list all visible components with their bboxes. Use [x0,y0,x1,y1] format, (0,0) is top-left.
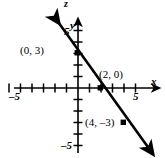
coordinate-plane-svg [0,0,165,158]
point-marker-0-3 [75,50,80,55]
x-axis-label: x [151,76,157,87]
graph-figure: z y x –5 5 5 –5 (0, 3) (2, 0) (4, –3) [0,0,165,158]
x-tick-label-five: 5 [133,91,139,102]
stray-z-artifact: z [64,0,68,9]
y-tick-label-negative-five: –5 [61,140,72,151]
y-tick-label-five: 5 [64,26,70,37]
point-label-0-3: (0, 3) [20,45,44,56]
point-marker-4--3 [121,120,126,125]
y-axis-label: y [70,20,75,31]
point-marker-2-0 [98,85,103,90]
x-tick-label-negative-five: –5 [9,91,20,102]
point-label-4-negative-3: (4, –3) [85,117,114,128]
point-label-2-0: (2, 0) [99,69,123,80]
